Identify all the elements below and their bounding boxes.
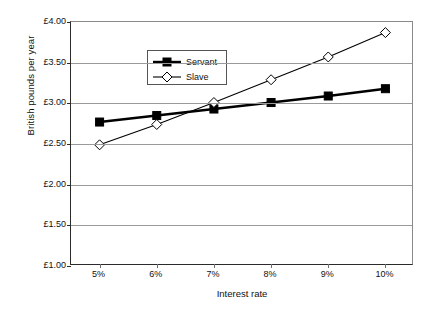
x-tick-mark bbox=[100, 264, 101, 268]
data-point-marker-diamond bbox=[323, 52, 333, 62]
gridline bbox=[71, 225, 412, 226]
y-tick-label: £1.00 bbox=[24, 260, 66, 270]
series-line bbox=[100, 89, 386, 122]
data-point-marker-diamond bbox=[152, 119, 162, 129]
legend-label: Slave bbox=[186, 72, 209, 82]
x-tick-label: 6% bbox=[134, 269, 178, 279]
legend-marker-open-diamond-icon bbox=[152, 70, 182, 84]
series-line bbox=[100, 33, 386, 145]
chart-legend: ServantSlave bbox=[147, 50, 227, 85]
data-point-marker-square bbox=[153, 112, 161, 120]
x-axis-title: Interest rate bbox=[70, 288, 414, 299]
y-tick-mark bbox=[67, 185, 71, 186]
x-tick-mark bbox=[157, 264, 158, 268]
x-tick-label: 9% bbox=[305, 269, 349, 279]
y-tick-mark bbox=[67, 103, 71, 104]
y-tick-label: £3.50 bbox=[24, 57, 66, 67]
gridline bbox=[71, 144, 412, 145]
series-slave bbox=[95, 28, 391, 150]
y-axis-tick-labels: £4.00£3.50£3.00£2.50£2.00£1.50£1.00 bbox=[20, 0, 66, 310]
y-tick-mark bbox=[67, 266, 71, 267]
gridline bbox=[71, 103, 412, 104]
x-tick-mark bbox=[385, 264, 386, 268]
y-tick-label: £3.00 bbox=[24, 97, 66, 107]
gridline bbox=[71, 185, 412, 186]
data-point-marker-square bbox=[324, 92, 332, 100]
y-tick-mark bbox=[67, 63, 71, 64]
plot-area: ServantSlave bbox=[70, 21, 413, 265]
x-tick-label: 5% bbox=[77, 269, 121, 279]
data-point-marker-diamond bbox=[266, 75, 276, 85]
x-tick-mark bbox=[271, 264, 272, 268]
x-axis-tick-labels: 5%6%7%8%9%10% bbox=[70, 269, 414, 285]
x-tick-mark bbox=[328, 264, 329, 268]
x-tick-mark bbox=[214, 264, 215, 268]
x-tick-label: 10% bbox=[362, 269, 406, 279]
line-chart: British pounds per year £4.00£3.50£3.00£… bbox=[0, 0, 438, 310]
y-tick-label: £4.00 bbox=[24, 16, 66, 26]
data-point-marker-square bbox=[381, 85, 389, 93]
y-tick-label: £2.00 bbox=[24, 179, 66, 189]
data-point-marker-square bbox=[96, 118, 104, 126]
x-tick-label: 7% bbox=[191, 269, 235, 279]
y-tick-label: £1.50 bbox=[24, 219, 66, 229]
y-tick-mark bbox=[67, 22, 71, 23]
y-tick-label: £2.50 bbox=[24, 138, 66, 148]
legend-item-slave[interactable]: Slave bbox=[148, 69, 226, 85]
y-tick-mark bbox=[67, 144, 71, 145]
gridline bbox=[71, 63, 412, 64]
y-tick-mark bbox=[67, 225, 71, 226]
data-point-marker-diamond bbox=[162, 72, 172, 82]
x-tick-label: 8% bbox=[248, 269, 292, 279]
data-point-marker-diamond bbox=[380, 28, 390, 38]
